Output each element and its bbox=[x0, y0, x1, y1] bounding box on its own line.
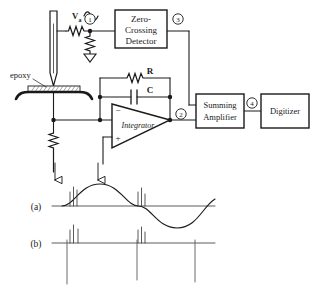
source-voltage-subscript: a bbox=[79, 17, 82, 23]
node-3-number: 3 bbox=[176, 16, 180, 24]
epoxy-label: epoxy bbox=[10, 70, 32, 80]
block-digitizer: Digitizer bbox=[261, 94, 309, 128]
schematic-canvas: Zero- Crossing Detector Summing Amplifie… bbox=[0, 0, 319, 288]
node-2-number: 2 bbox=[179, 111, 183, 119]
trace-b-label: (b) bbox=[30, 239, 41, 250]
digitizer-label: Digitizer bbox=[270, 106, 300, 116]
trace-a bbox=[52, 184, 215, 228]
feedback-resistor-label: R bbox=[147, 66, 154, 76]
node-marker-2: 2 bbox=[176, 109, 186, 119]
block-summing-amplifier: Summing Amplifier bbox=[196, 94, 244, 128]
waveform-panel bbox=[52, 163, 215, 284]
node-marker-3: 3 bbox=[173, 14, 183, 24]
circuit-schematic-figure: Zero- Crossing Detector Summing Amplifie… bbox=[0, 0, 319, 288]
zcd-output-route bbox=[167, 31, 196, 105]
node-4-number: 4 bbox=[250, 100, 254, 108]
timing-arrows bbox=[55, 163, 98, 180]
trigger-lines bbox=[67, 240, 195, 284]
needle-probe bbox=[50, 11, 57, 86]
zcd-label-line-1: Zero- bbox=[131, 14, 151, 24]
summing-amplifier-label-line-1: Summing bbox=[203, 100, 237, 110]
trace-b bbox=[52, 225, 215, 284]
summing-amplifier-label-line-2: Amplifier bbox=[203, 112, 237, 122]
opamp-noninverting-input-label: + bbox=[115, 133, 120, 143]
block-zero-crossing-detector: Zero- Crossing Detector bbox=[115, 10, 167, 48]
zcd-label-line-3: Detector bbox=[126, 36, 157, 46]
sample-epoxy-assembly bbox=[16, 79, 112, 172]
node-marker-1: 1 bbox=[85, 14, 95, 24]
feedback-capacitor-label: C bbox=[147, 85, 154, 95]
zcd-label-line-2: Crossing bbox=[125, 25, 158, 35]
opamp-inverting-input-label: − bbox=[115, 105, 120, 115]
node-1-number: 1 bbox=[88, 16, 92, 24]
integrator-label: Integrator bbox=[121, 121, 156, 130]
node-marker-4: 4 bbox=[247, 98, 257, 108]
trace-a-label: (a) bbox=[31, 202, 42, 213]
